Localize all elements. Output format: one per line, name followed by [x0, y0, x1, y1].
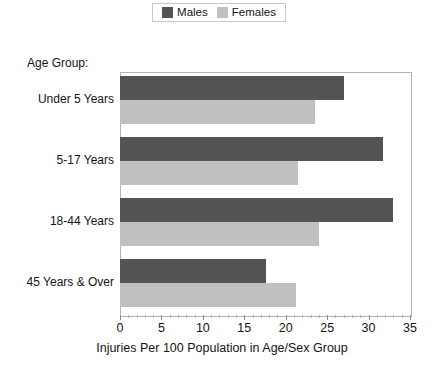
x-tick-major [120, 315, 121, 320]
x-axis-tick-labels: 05101520253035 [120, 321, 410, 337]
y-axis-tick-label-1: 5-17 Years [2, 153, 114, 167]
x-tick-major [161, 315, 162, 320]
x-tick-minor [335, 315, 336, 318]
bar-females-2 [120, 222, 319, 246]
y-axis-title: Age Group: [27, 56, 88, 70]
legend-label-males: Males [177, 7, 208, 18]
legend-entry-females: Females [217, 7, 276, 18]
x-tick-label-10: 10 [196, 321, 210, 335]
x-tick-major [286, 315, 287, 320]
bar-males-0 [120, 76, 344, 100]
y-axis-tick-label-2: 18-44 Years [2, 214, 114, 228]
x-tick-minor [211, 315, 212, 318]
x-tick-label-35: 35 [403, 321, 417, 335]
x-tick-major [369, 315, 370, 320]
x-tick-minor [195, 315, 196, 318]
bar-females-3 [120, 283, 296, 307]
x-tick-minor [302, 315, 303, 318]
y-axis-tick-label-0: Under 5 Years [2, 92, 114, 106]
x-tick-major [327, 315, 328, 320]
x-tick-minor [261, 315, 262, 318]
x-tick-label-15: 15 [237, 321, 251, 335]
x-tick-label-25: 25 [320, 321, 334, 335]
bar-males-3 [120, 259, 266, 283]
x-tick-minor [253, 315, 254, 318]
bar-females-1 [120, 161, 298, 185]
x-tick-minor [137, 315, 138, 318]
x-tick-minor [360, 315, 361, 318]
x-tick-major [244, 315, 245, 320]
x-tick-minor [377, 315, 378, 318]
x-tick-minor [153, 315, 154, 318]
bar-group [120, 137, 410, 185]
x-tick-minor [228, 315, 229, 318]
x-tick-major [203, 315, 204, 320]
x-tick-label-5: 5 [158, 321, 165, 335]
x-tick-minor [128, 315, 129, 318]
x-tick-minor [393, 315, 394, 318]
y-axis-tick-label-3: 45 Years & Over [2, 275, 114, 289]
x-tick-minor [236, 315, 237, 318]
x-tick-minor [352, 315, 353, 318]
x-tick-minor [145, 315, 146, 318]
x-tick-minor [178, 315, 179, 318]
x-tick-label-0: 0 [117, 321, 124, 335]
x-tick-label-30: 30 [362, 321, 376, 335]
chart-legend: Males Females [152, 3, 286, 22]
x-tick-minor [319, 315, 320, 318]
bar-group [120, 259, 410, 307]
x-tick-minor [311, 315, 312, 318]
legend-label-females: Females [232, 7, 276, 18]
x-tick-minor [186, 315, 187, 318]
square-swatch-icon [217, 7, 228, 18]
y-axis-tick-labels: Under 5 Years5-17 Years18-44 Years45 Yea… [0, 72, 114, 315]
square-swatch-icon [162, 7, 173, 18]
x-tick-minor [219, 315, 220, 318]
bars-layer [120, 72, 410, 315]
x-tick-minor [385, 315, 386, 318]
bar-males-2 [120, 198, 393, 222]
x-tick-minor [277, 315, 278, 318]
x-tick-label-20: 20 [279, 321, 293, 335]
x-tick-minor [344, 315, 345, 318]
legend-entry-males: Males [162, 7, 208, 18]
x-tick-minor [402, 315, 403, 318]
x-tick-minor [269, 315, 270, 318]
bar-males-1 [120, 137, 383, 161]
x-axis-title: Injuries Per 100 Population in Age/Sex G… [0, 341, 444, 355]
bar-group [120, 198, 410, 246]
x-tick-minor [170, 315, 171, 318]
bar-females-0 [120, 100, 315, 124]
x-tick-major [410, 315, 411, 320]
bar-group [120, 76, 410, 124]
x-tick-minor [294, 315, 295, 318]
